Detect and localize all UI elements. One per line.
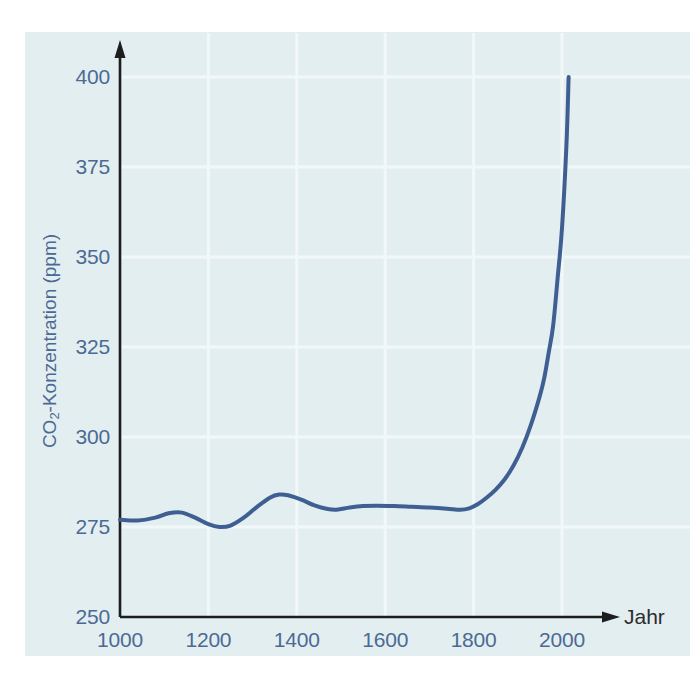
x-axis-title: Jahr bbox=[624, 605, 665, 629]
y-tick-label: 275 bbox=[60, 515, 110, 539]
y-tick-label: 300 bbox=[60, 425, 110, 449]
x-tick-label: 2000 bbox=[539, 628, 585, 652]
y-tick-label: 350 bbox=[60, 245, 110, 269]
y-tick-label: 325 bbox=[60, 335, 110, 359]
x-tick-label: 1600 bbox=[362, 628, 408, 652]
y-axis-title: CO2-Konzentration (ppm) bbox=[39, 211, 61, 471]
y-tick-label: 375 bbox=[60, 155, 110, 179]
x-tick-label: 1000 bbox=[97, 628, 143, 652]
x-tick-label: 1800 bbox=[451, 628, 497, 652]
y-tick-label: 250 bbox=[60, 605, 110, 629]
x-tick-label: 1400 bbox=[274, 628, 320, 652]
data-line-series-0 bbox=[120, 77, 569, 527]
x-axis-arrow-icon bbox=[602, 612, 620, 623]
axes-group bbox=[115, 40, 621, 623]
y-axis-arrow-icon bbox=[115, 40, 126, 58]
x-tick-label: 1200 bbox=[185, 628, 231, 652]
data-series-group bbox=[120, 77, 569, 527]
y-axis-title-subscript: 2 bbox=[47, 412, 62, 419]
y-tick-label: 400 bbox=[60, 65, 110, 89]
gridlines-group bbox=[121, 33, 690, 616]
chart-figure: 250275300325350375400 100012001400160018… bbox=[0, 0, 697, 675]
